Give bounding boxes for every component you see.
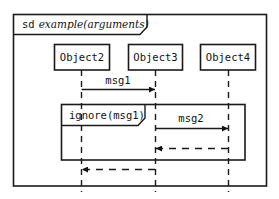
sequence-diagram: sdexample(arguments) Object2 Object3 Obj…	[0, 0, 279, 199]
ignore-fragment-label: ignore(msg1)	[69, 109, 145, 121]
frame-keyword: sd	[22, 18, 35, 30]
message-label-msg1: msg1	[105, 74, 130, 86]
frame-name: example(arguments)	[39, 18, 149, 30]
lifeline-object4: Object4	[201, 45, 256, 193]
ignore-fragment: ignore(msg1) msg2	[62, 105, 246, 161]
message-label-msg2: msg2	[178, 112, 203, 124]
lifeline-label-object4: Object4	[206, 51, 250, 63]
lifeline-label-object2: Object2	[60, 51, 104, 63]
lifeline-label-object3: Object3	[133, 51, 177, 63]
message-msg1: msg1	[82, 74, 156, 90]
frame-title: sdexample(arguments)	[22, 18, 149, 30]
